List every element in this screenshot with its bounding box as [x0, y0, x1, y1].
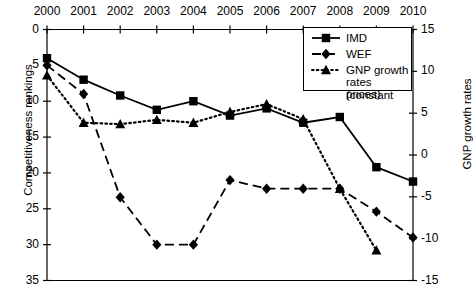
- y-left-tick-10: 10: [13, 93, 39, 107]
- y-left-tick-25: 25: [13, 201, 39, 215]
- legend-label-gnp-line3: prices): [346, 88, 381, 101]
- y-right-tick-5: 5: [421, 105, 451, 119]
- x-tick-2005: 2005: [210, 4, 250, 18]
- x-tick-2010: 2010: [393, 4, 433, 18]
- legend-label-imd: IMD: [346, 32, 367, 45]
- x-tick-2002: 2002: [100, 4, 140, 18]
- x-tick-2000: 2000: [27, 4, 67, 18]
- legend-label-wef: WEF: [346, 48, 372, 61]
- y-right-tick-15: 15: [421, 22, 451, 36]
- y-left-tick-30: 30: [13, 237, 39, 251]
- y-left-tick-20: 20: [13, 165, 39, 179]
- y-left-tick-5: 5: [13, 57, 39, 71]
- y-left-tick-15: 15: [13, 129, 39, 143]
- x-tick-2007: 2007: [283, 4, 323, 18]
- x-tick-2004: 2004: [173, 4, 213, 18]
- y-left-tick-35: 35: [13, 273, 39, 287]
- x-tick-2001: 2001: [64, 4, 104, 18]
- x-tick-2003: 2003: [137, 4, 177, 18]
- x-tick-2009: 2009: [356, 4, 396, 18]
- legend-label-gnp-line1: GNP growth: [346, 64, 408, 77]
- y-right-tick--5: -5: [421, 189, 451, 203]
- y-right-tick-0: 0: [421, 147, 451, 161]
- y-right-tick--15: -15: [421, 273, 451, 287]
- y-right-tick-10: 10: [421, 63, 451, 77]
- x-tick-2006: 2006: [247, 4, 287, 18]
- chart-legend: IMD WEF GNP growth rates (constant price…: [303, 27, 412, 91]
- y-right-tick--10: -10: [421, 231, 451, 245]
- x-tick-2008: 2008: [320, 4, 360, 18]
- y-left-tick-0: 0: [13, 22, 39, 36]
